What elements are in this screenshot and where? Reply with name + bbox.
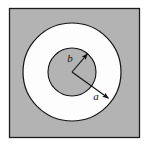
figure-container: b a <box>0 0 150 149</box>
annulus-diagram-svg: b a <box>0 0 150 149</box>
label-inner-radius-b: b <box>67 52 73 64</box>
label-outer-radius-a: a <box>93 90 99 102</box>
